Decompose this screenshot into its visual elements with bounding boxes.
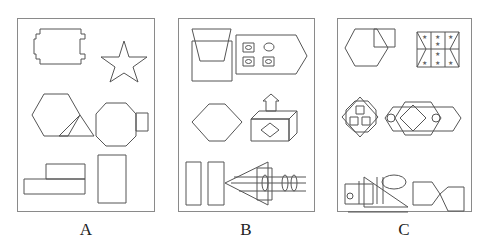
notched-rectangle-shape <box>34 29 85 64</box>
window-3 <box>243 57 254 66</box>
set-square-triangle <box>364 177 408 207</box>
upper-rectangle-shape <box>46 164 85 179</box>
pentagon-right-shape <box>440 187 464 211</box>
left-tall-rectangle <box>186 162 201 205</box>
arrow-top-shape <box>263 94 279 111</box>
window-3-inner <box>246 60 252 64</box>
window-1 <box>243 43 254 52</box>
cross-circle-right <box>432 114 440 122</box>
panel-a-label: A <box>66 220 106 240</box>
ellipse-shape <box>382 175 406 189</box>
box-front-shape <box>251 119 289 141</box>
svg-text:★: ★ <box>435 60 440 66</box>
svg-text:★: ★ <box>448 34 453 40</box>
lower-rectangle-shape <box>24 179 85 194</box>
svg-text:★: ★ <box>422 34 427 40</box>
window-1-inner <box>246 46 252 50</box>
diamond-shape <box>342 97 378 137</box>
panel-c-label: C <box>384 220 424 240</box>
svg-text:★: ★ <box>435 51 440 57</box>
trapezoid-shape <box>192 29 231 61</box>
diamond-shape <box>261 123 279 137</box>
cross-circle-left <box>387 114 395 122</box>
inner-square-3 <box>362 117 370 125</box>
panel-c: ★★★ ★★ ★★★ <box>337 18 472 212</box>
big-diamond-shape <box>400 105 426 131</box>
small-square-shape <box>136 113 148 131</box>
window-4-inner <box>266 60 272 64</box>
tall-rectangle-shape <box>98 155 126 203</box>
hexagon-shape <box>32 94 80 136</box>
pentagon-left-shape <box>413 182 440 205</box>
triangle-shape <box>59 115 94 136</box>
svg-text:★: ★ <box>435 41 440 47</box>
inner-square-2 <box>350 117 358 125</box>
elongated-hexagon-shape <box>192 104 242 141</box>
window-2 <box>264 43 274 51</box>
window-4 <box>263 57 274 66</box>
panel-a <box>17 18 155 212</box>
panel-b <box>178 18 315 212</box>
star-glyphs: ★★★ ★★ ★★★ <box>422 34 453 66</box>
overlap-square-shape <box>374 29 395 47</box>
svg-text:★: ★ <box>448 60 453 66</box>
right-tall-rectangle <box>208 162 224 205</box>
octagon-shape <box>96 103 136 146</box>
pentagon-house-shape <box>236 35 307 74</box>
svg-text:★: ★ <box>435 34 440 40</box>
frame-rectangle <box>257 168 272 200</box>
svg-text:★: ★ <box>422 60 427 66</box>
inner-square-1 <box>356 106 364 114</box>
star-shape <box>101 41 147 82</box>
octagon-right-shape <box>385 107 461 131</box>
panel-b-label: B <box>226 220 266 240</box>
box-side-shape <box>289 111 297 141</box>
